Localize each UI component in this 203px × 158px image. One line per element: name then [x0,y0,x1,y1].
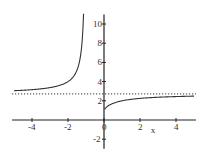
function-plot: -4-2024-2246810x [0,0,203,158]
y-tick-label: 8 [98,38,103,48]
curve-right-branch [105,96,194,109]
y-tick-label: 4 [98,77,103,87]
x-tick-label: 2 [138,122,143,132]
x-axis-label: x [151,125,156,135]
x-tick-label: 0 [102,122,107,132]
y-tick-label: -2 [93,134,101,144]
x-tick-label: 4 [174,122,179,132]
y-tick-label: 2 [98,96,103,106]
y-tick-label: 6 [98,57,103,67]
x-tick-label: -4 [28,122,36,132]
x-tick-label: -2 [64,122,72,132]
curve-left-branch [14,14,84,90]
y-tick-label: 10 [93,19,103,29]
